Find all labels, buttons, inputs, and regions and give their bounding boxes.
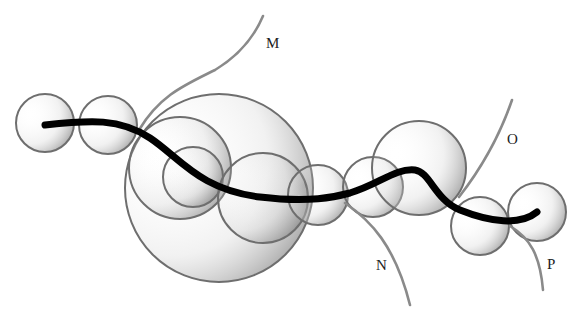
branch-curve-o [459,100,512,197]
branch-curve-n [345,203,410,305]
label-n: N [376,257,387,274]
diagram-svg [0,0,584,325]
label-o: O [507,131,518,148]
label-p: P [547,256,555,273]
osculating-circle [451,197,509,255]
label-m: M [266,35,279,52]
diagram-canvas: M N O P [0,0,584,325]
